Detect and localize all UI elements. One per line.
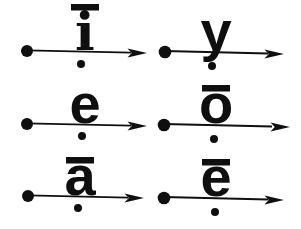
- cell-long-o: o: [150, 73, 301, 146]
- arrow-scene: e: [150, 146, 301, 219]
- vowel-letter: y: [200, 0, 231, 62]
- below-dot: [77, 60, 85, 68]
- arrow-scene: y: [150, 0, 301, 73]
- cell-y: y: [150, 0, 301, 73]
- arrow-scene: o: [150, 73, 301, 146]
- cell-long-e: e: [150, 146, 301, 229]
- below-dot: [78, 132, 86, 140]
- cell-long-i: i: [0, 0, 150, 73]
- vowel-letter: e: [69, 72, 100, 135]
- vowel-letter: i: [75, 1, 95, 62]
- below-dot: [210, 135, 218, 143]
- vowel-arrow-diagram: i y e o: [0, 0, 301, 229]
- vowel-letter: e: [200, 145, 231, 208]
- below-dot: [208, 62, 216, 70]
- vowel-letter: o: [199, 72, 233, 135]
- below-dot: [211, 208, 219, 216]
- below-dot: [74, 204, 82, 212]
- vowel-letter: a: [64, 144, 96, 207]
- cell-long-a: a: [0, 146, 150, 229]
- arrow-scene: e: [0, 73, 150, 146]
- arrow-scene: i: [0, 0, 150, 73]
- arrow-head-icon: [271, 122, 291, 131]
- arrow-scene: a: [0, 146, 150, 219]
- cell-e: e: [0, 73, 150, 146]
